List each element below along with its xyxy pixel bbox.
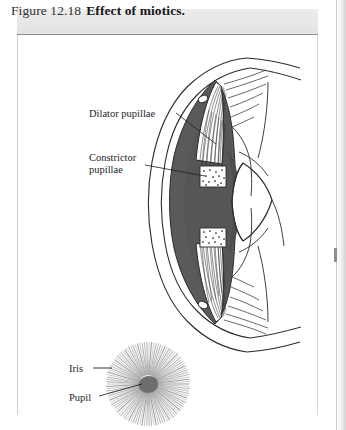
page-edge-line bbox=[336, 0, 337, 430]
vitreous-face-line bbox=[258, 246, 268, 322]
iris-inset-diagram bbox=[93, 342, 190, 427]
label-constrictor-pupillae: Constrictor pupillae bbox=[89, 152, 136, 176]
figure-title: Effect of miotics. bbox=[86, 3, 185, 18]
figure-caption: Figure 12.18Effect of miotics. bbox=[11, 3, 185, 19]
label-constrictor-line-1: Constrictor bbox=[89, 152, 136, 164]
constrictor-pupillae-superior bbox=[200, 166, 226, 187]
constrictor-pupillae-inferior bbox=[200, 228, 226, 247]
figure-frame-left-rule bbox=[17, 35, 18, 415]
label-pupil: Pupil bbox=[69, 392, 91, 404]
figure-page: Figure 12.18Effect of miotics. Dilator p… bbox=[0, 0, 346, 430]
label-dilator-pupillae: Dilator pupillae bbox=[89, 108, 155, 120]
conjunctiva-superior-fold bbox=[250, 68, 301, 80]
page-edge-tick bbox=[334, 248, 337, 262]
anterior-vitreous-line bbox=[258, 82, 268, 158]
label-iris: Iris bbox=[69, 363, 83, 375]
figure-number: Figure 12.18 bbox=[11, 3, 81, 18]
label-constrictor-line-2: pupillae bbox=[89, 164, 136, 176]
sclera-inferior-sweep bbox=[247, 342, 300, 352]
conjunctiva-inferior-fold bbox=[250, 327, 301, 338]
sclera-superior-sweep bbox=[247, 58, 300, 68]
figure-frame-right-rule bbox=[317, 35, 318, 415]
posterior-capsule-line bbox=[272, 200, 284, 246]
figure-artwork bbox=[0, 0, 346, 430]
